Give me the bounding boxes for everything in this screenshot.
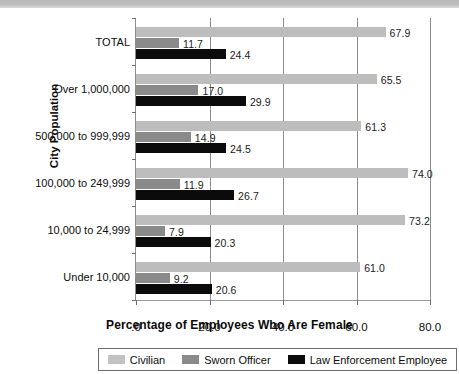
gridline <box>430 18 431 300</box>
legend-item[interactable]: Sworn Officer <box>182 354 270 366</box>
bar-group: 73.27.920.3 <box>136 206 430 253</box>
bar-group: 65.517.029.9 <box>136 65 430 112</box>
legend-label: Law Enforcement Employee <box>310 354 448 366</box>
category-label: TOTAL <box>0 36 130 48</box>
bar-value-label: 67.9 <box>390 28 411 38</box>
bar-law[interactable] <box>136 190 234 200</box>
bar-civilian[interactable] <box>136 74 377 84</box>
y-tick-mark <box>132 253 136 254</box>
bar-value-label: 74.0 <box>412 169 433 179</box>
bar-group: 74.011.926.7 <box>136 159 430 206</box>
legend-item[interactable]: Law Enforcement Employee <box>288 354 448 366</box>
bar-civilian[interactable] <box>136 168 408 178</box>
category-label: Under 10,000 <box>0 271 130 283</box>
bar-value-label: 65.5 <box>381 75 402 85</box>
bar-value-label: 20.6 <box>216 285 237 295</box>
bar-civilian[interactable] <box>136 215 405 225</box>
legend-item[interactable]: Civilian <box>108 354 165 366</box>
category-label: 10,000 to 24,999 <box>0 224 130 236</box>
bar-sworn[interactable] <box>136 85 198 95</box>
bar-sworn[interactable] <box>136 226 165 236</box>
x-tick-mark <box>283 300 284 305</box>
bar-law[interactable] <box>136 96 246 106</box>
category-label: Over 1,000,000 <box>0 83 130 95</box>
bar-sworn[interactable] <box>136 273 170 283</box>
bar-law[interactable] <box>136 237 211 247</box>
bar-value-label: 14.9 <box>195 133 216 143</box>
bar-chart: City Population 67.911.724.465.517.029.9… <box>0 0 459 374</box>
bar-value-label: 9.2 <box>174 274 189 284</box>
y-tick-mark <box>132 206 136 207</box>
category-label: 500,000 to 999,999 <box>0 130 130 142</box>
x-tick-mark <box>357 300 358 305</box>
bar-value-label: 29.9 <box>250 97 271 107</box>
bar-value-label: 24.5 <box>230 144 251 154</box>
bar-value-label: 7.9 <box>169 227 184 237</box>
chart-legend: CivilianSworn OfficerLaw Enforcement Emp… <box>98 348 457 371</box>
plot-area: 67.911.724.465.517.029.961.314.924.574.0… <box>136 18 430 300</box>
legend-swatch-icon <box>288 355 305 364</box>
bar-law[interactable] <box>136 49 226 59</box>
bar-group: 67.911.724.4 <box>136 18 430 65</box>
bar-value-label: 20.3 <box>215 238 236 248</box>
bar-value-label: 61.3 <box>365 122 386 132</box>
bar-value-label: 11.7 <box>183 39 203 49</box>
bar-law[interactable] <box>136 143 226 153</box>
legend-swatch-icon <box>182 355 199 364</box>
x-tick-mark <box>136 300 137 305</box>
bar-civilian[interactable] <box>136 121 361 131</box>
bar-value-label: 73.2 <box>409 216 430 226</box>
y-tick-mark <box>132 65 136 66</box>
bar-value-label: 11.9 <box>184 180 204 190</box>
bar-value-label: 17.0 <box>202 86 223 96</box>
bar-civilian[interactable] <box>136 262 360 272</box>
y-tick-mark <box>132 159 136 160</box>
y-tick-mark <box>132 300 136 301</box>
bar-sworn[interactable] <box>136 38 179 48</box>
bar-civilian[interactable] <box>136 27 386 37</box>
x-axis-title: Percentage of Employees Who Are Female <box>0 318 459 332</box>
bar-group: 61.314.924.5 <box>136 112 430 159</box>
bar-sworn[interactable] <box>136 132 191 142</box>
x-tick-mark <box>210 300 211 305</box>
bar-value-label: 24.4 <box>230 50 251 60</box>
bar-group: 61.09.220.6 <box>136 253 430 300</box>
bar-sworn[interactable] <box>136 179 180 189</box>
y-tick-mark <box>132 112 136 113</box>
legend-label: Sworn Officer <box>204 354 270 366</box>
category-label: 100,000 to 249,999 <box>0 177 130 189</box>
legend-label: Civilian <box>130 354 165 366</box>
bar-value-label: 26.7 <box>238 191 259 201</box>
legend-swatch-icon <box>108 355 125 364</box>
bar-value-label: 61.0 <box>364 263 385 273</box>
bar-law[interactable] <box>136 284 212 294</box>
x-tick-mark <box>430 300 431 305</box>
y-tick-mark <box>132 18 136 19</box>
